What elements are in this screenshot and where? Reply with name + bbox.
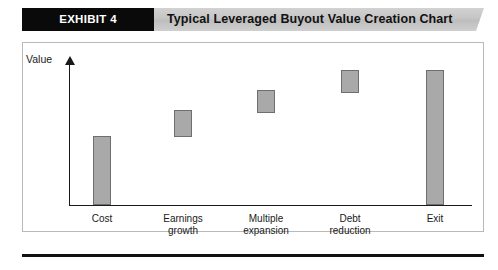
- y-axis-label: Value: [26, 53, 52, 65]
- exhibit-title: Typical Leveraged Buyout Value Creation …: [167, 8, 453, 31]
- y-axis-line: [69, 64, 70, 206]
- chart-frame: Value Cost Earnings growth Multiple expa…: [22, 42, 484, 232]
- x-axis-label-multiple-expansion: Multiple expansion: [231, 213, 301, 237]
- exhibit-number-label: EXHIBIT 4: [22, 8, 154, 31]
- bar-exit: [426, 70, 444, 205]
- bar-earnings-growth: [174, 110, 192, 137]
- x-axis-label-debt-reduction: Debt reduction: [317, 213, 383, 237]
- x-axis-label-earnings-growth: Earnings growth: [150, 213, 216, 237]
- bar-debt-reduction: [341, 70, 359, 93]
- x-axis-label-cost: Cost: [69, 213, 135, 225]
- x-axis-line: [69, 205, 472, 206]
- x-axis-label-exit: Exit: [402, 213, 468, 225]
- bar-cost: [93, 136, 111, 205]
- exhibit-header-banner: EXHIBIT 4 Typical Leveraged Buyout Value…: [22, 8, 484, 31]
- bottom-divider-rule: [22, 254, 484, 257]
- bar-multiple-expansion: [257, 90, 275, 113]
- chart-plot-area: Value Cost Earnings growth Multiple expa…: [23, 43, 485, 233]
